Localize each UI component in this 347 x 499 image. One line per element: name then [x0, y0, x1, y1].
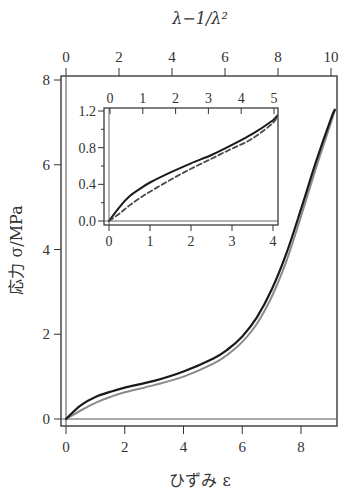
main-y-axis-ticks: 02468	[43, 72, 62, 427]
top-x-tick-label: 4	[168, 49, 176, 65]
inset-top-x-tick-label: 0	[107, 91, 114, 106]
top-x-tick-label: 0	[62, 49, 70, 65]
inset-top-x-tick-label: 3	[205, 91, 212, 106]
x-tick-label: 8	[297, 439, 305, 455]
inset-x-tick-label: 1	[147, 234, 154, 249]
inset-y-tick-label: 0.8	[79, 141, 97, 156]
x-axis-title: ひずみ ε	[169, 471, 230, 490]
inset-x-tick-label: 0	[106, 234, 113, 249]
inset-background	[104, 108, 278, 225]
x-tick-label: 0	[62, 439, 70, 455]
inset-y-tick-label: 0.4	[79, 177, 97, 192]
inset-top-x-tick-label: 4	[238, 91, 245, 106]
inset-x-tick-label: 2	[188, 234, 195, 249]
inset-y-axis-ticks: 0.00.40.81.2	[79, 104, 105, 229]
inset-top-x-tick-label: 1	[139, 91, 146, 106]
y-tick-label: 8	[43, 72, 51, 88]
inset-x-tick-label: 3	[229, 234, 236, 249]
y-tick-label: 0	[43, 411, 51, 427]
top-x-tick-label: 8	[274, 49, 282, 65]
y-tick-label: 4	[43, 242, 51, 258]
inset-top-x-tick-label: 5	[271, 91, 278, 106]
y-tick-label: 2	[43, 326, 51, 342]
inset-plot: 0.00.40.81.2 01234 012345	[79, 91, 279, 249]
top-x-tick-label: 10	[324, 49, 339, 65]
x-tick-label: 4	[180, 439, 188, 455]
main-top-axis-ticks: 0246810	[62, 49, 338, 76]
inset-x-axis-ticks: 01234	[106, 225, 277, 249]
top-x-tick-label: 6	[221, 49, 229, 65]
top-axis-title: λ−1/λ²	[171, 9, 228, 28]
x-tick-label: 6	[239, 439, 247, 455]
y-tick-label: 6	[43, 157, 51, 173]
inset-x-tick-label: 4	[270, 234, 277, 249]
y-axis-title: 応力 σ/MPa	[7, 205, 26, 295]
x-tick-label: 2	[121, 439, 129, 455]
main-x-axis-ticks: 02468	[62, 426, 305, 455]
inset-top-x-tick-label: 2	[172, 91, 179, 106]
inset-y-tick-label: 1.2	[79, 104, 97, 119]
top-x-tick-label: 2	[115, 49, 123, 65]
inset-y-tick-label: 0.0	[79, 214, 97, 229]
stress-strain-chart: 02468 02468 0246810 0.00.40.81.2 01234 0…	[0, 0, 347, 499]
